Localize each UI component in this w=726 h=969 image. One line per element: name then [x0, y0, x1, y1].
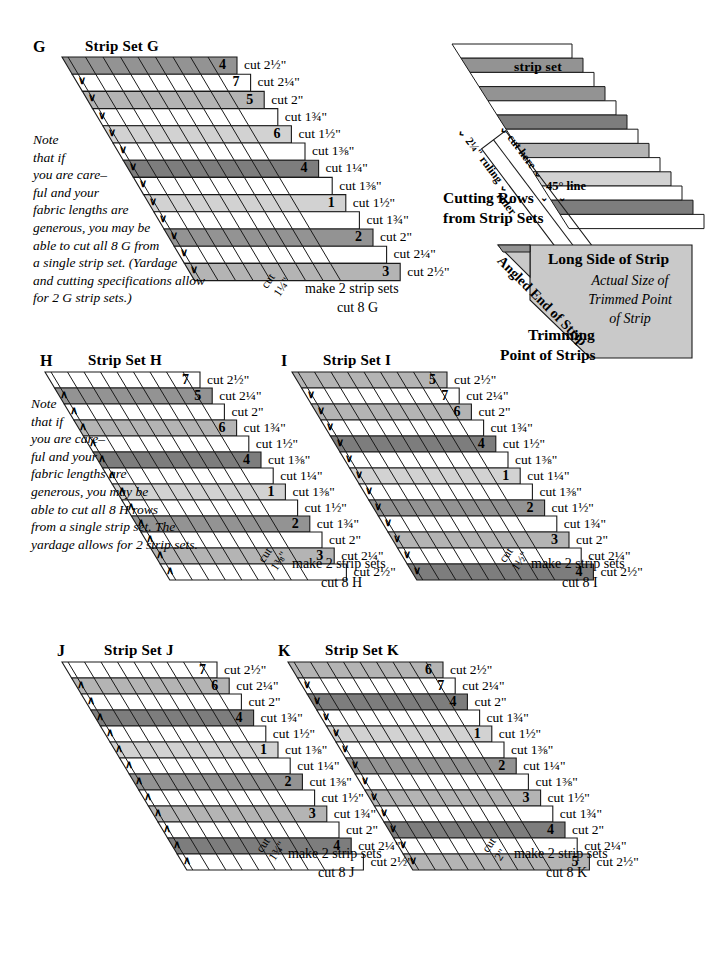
- cut-direction-chevron: ∧: [183, 855, 191, 866]
- strip-row-number: 6: [273, 126, 280, 142]
- strip-set-note-line: Note: [31, 395, 57, 413]
- strip-row-cut-label: cut 1⅜": [511, 742, 553, 758]
- strip-row-cut-label: cut 2": [478, 404, 510, 420]
- cut-direction-chevron: ∧: [115, 743, 123, 754]
- cut-direction-chevron: ∨: [374, 501, 382, 512]
- cutting-rows-caption-line1: Cutting Rows: [443, 188, 534, 208]
- strip-row-cut-label: cut 2½": [454, 372, 496, 388]
- strip-row-number: 6: [211, 678, 218, 694]
- cut-direction-chevron: ∧: [173, 839, 181, 850]
- cut-width-tag-G: cut1¼": [258, 266, 294, 299]
- cut-direction-chevron: ∨: [336, 437, 344, 448]
- strip-set-letter-J: J: [57, 642, 65, 660]
- strip-row-number: 2: [292, 516, 299, 532]
- cut-direction-chevron: ∨: [303, 679, 311, 690]
- strip-row-cut-label: cut 1¾": [334, 806, 376, 822]
- strip-row-cut-label: cut 1½": [273, 726, 315, 742]
- strip-row-cut-label: cut 1½": [552, 500, 594, 516]
- cut-direction-chevron: ∨: [119, 144, 127, 155]
- strip-set-note-line: generous, you may be: [33, 219, 150, 237]
- cut-direction-chevron: ∧: [98, 453, 106, 464]
- strip-row-cut-label: cut 1½": [322, 790, 364, 806]
- strip-row-cut-label: cut 2½": [244, 57, 286, 73]
- strip-row-cut-label: cut 1½": [256, 436, 298, 452]
- cut-direction-chevron: ∨: [322, 711, 330, 722]
- cut-direction-chevron: ∧: [87, 695, 95, 706]
- strip-row-number: 6: [425, 662, 432, 678]
- strip-row-cut-label: cut 1¾": [491, 420, 533, 436]
- strip-row-number: 7: [437, 678, 444, 694]
- cut-width-tag-I: cut1½": [496, 540, 532, 573]
- cut-direction-chevron: ∨: [355, 469, 363, 480]
- strip-row-cut-label: cut 2¼": [466, 388, 508, 404]
- cut-direction-chevron: ∨: [98, 110, 106, 121]
- make-strip-sets-label: make 2 strip sets: [514, 846, 608, 862]
- strip-set-note-line: fabric lengths are: [33, 201, 129, 219]
- strip-row-number: 3: [551, 532, 558, 548]
- strip-row-cut-label: cut 1⅜": [515, 452, 557, 468]
- cut-direction-chevron: ∨: [129, 161, 137, 172]
- text-overlay-layer: 4cut 2½"7cut 2¼"5cut 2"cut 1¾"6cut 1½"cu…: [0, 0, 726, 969]
- strip-row-cut-label: cut 2": [329, 532, 361, 548]
- strip-set-letter-G: G: [33, 38, 45, 56]
- strip-row-number: 5: [246, 92, 253, 108]
- cut-here-label: ⌄ cut here ⌄: [497, 121, 548, 182]
- strip-row-cut-label: cut 1¼": [523, 758, 565, 774]
- strip-set-note-line: you are care–: [33, 166, 107, 184]
- strip-row-number: 2: [498, 758, 505, 774]
- cut-direction-chevron: ∨: [409, 855, 417, 866]
- cut-width-tag-J: cut1¾": [253, 830, 289, 863]
- cut-direction-chevron: ∨: [399, 839, 407, 850]
- strip-row-cut-label: cut 1½": [499, 726, 541, 742]
- strip-set-title-J: Strip Set J: [104, 642, 174, 659]
- strip-row-cut-label: cut 1¼": [280, 468, 322, 484]
- strip-set-note-line: ful and your: [31, 448, 97, 466]
- strip-row-cut-label: cut 2½": [450, 662, 492, 678]
- cut-direction-chevron: ∨: [370, 791, 378, 802]
- strip-row-cut-label: cut 2": [576, 532, 608, 548]
- cut-direction-chevron: ∨: [389, 823, 397, 834]
- strip-row-cut-label: cut 1¾": [261, 710, 303, 726]
- strip-set-note-line: from a single strip set. The: [31, 518, 175, 536]
- cut-direction-chevron: ∧: [154, 807, 162, 818]
- strip-row-cut-label: cut 1½": [353, 195, 395, 211]
- actual-size-line: Actual Size of: [575, 271, 685, 290]
- cut-direction-chevron: ∨: [317, 405, 325, 416]
- cut-direction-chevron: ∨: [139, 178, 147, 189]
- strip-row-cut-label: cut 1¾": [564, 516, 606, 532]
- cut-count-label: cut 8 K: [546, 865, 587, 881]
- strip-row-cut-label: cut 1¾": [366, 212, 408, 228]
- cut-direction-chevron: ∧: [106, 727, 114, 738]
- strip-row-number: 4: [243, 452, 250, 468]
- long-side-of-strip-label: Long Side of Strip: [548, 249, 669, 269]
- cut-direction-chevron: ∨: [393, 533, 401, 544]
- strip-row-cut-label: cut 1¾": [487, 710, 529, 726]
- strip-row-number: 7: [199, 662, 206, 678]
- strip-row-cut-label: cut 1¼": [527, 468, 569, 484]
- strip-row-number: 6: [219, 420, 226, 436]
- strip-row-cut-label: cut 1½": [503, 436, 545, 452]
- strip-row-number: 4: [301, 160, 308, 176]
- strip-row-cut-label: cut 1⅜": [312, 143, 354, 159]
- cut-count-label: cut 8 I: [562, 575, 598, 591]
- strip-row-number: 3: [382, 264, 389, 280]
- cut-direction-chevron: ∨: [180, 247, 188, 258]
- cut-direction-chevron: ∧: [163, 823, 171, 834]
- strip-row-number: 3: [309, 806, 316, 822]
- cut-direction-chevron: ∨: [159, 213, 167, 224]
- cut-width-tag-K: cut2": [479, 835, 512, 864]
- strip-set-note-line: able to cut all 8 G from: [33, 237, 159, 255]
- cut-direction-chevron: ∧: [135, 775, 143, 786]
- strip-row-number: 3: [523, 790, 530, 806]
- cut-direction-chevron: ∨: [88, 92, 96, 103]
- strip-row-number: 4: [449, 694, 456, 710]
- cut-width-tag-H: cut1⅜": [255, 540, 291, 573]
- strip-row-number: 1: [328, 195, 335, 211]
- strip-row-cut-label: cut 1¾": [317, 516, 359, 532]
- strip-row-number: 4: [547, 822, 554, 838]
- strip-set-note-line: you are care–: [31, 430, 105, 448]
- strip-row-number: 5: [194, 388, 201, 404]
- cut-direction-chevron: ∨: [307, 389, 315, 400]
- strip-row-number: 1: [260, 742, 267, 758]
- line45-chevrons: ⌄ ⌄: [540, 192, 566, 203]
